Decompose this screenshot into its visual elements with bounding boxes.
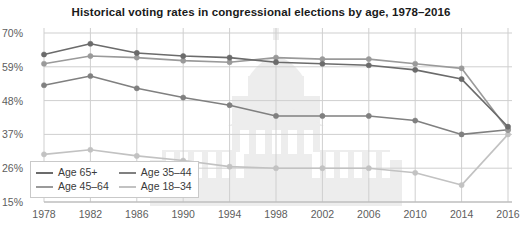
x-axis-tick-label: 1990: [172, 208, 196, 220]
legend-item[interactable]: Age 45–64: [36, 180, 109, 193]
y-axis-tick-label: 15%: [2, 196, 23, 208]
legend-label: Age 65+: [58, 166, 97, 179]
data-point: [227, 55, 232, 60]
data-point: [41, 152, 46, 157]
legend-label: Age 35–44: [141, 166, 192, 179]
data-point: [273, 60, 278, 65]
x-axis-tick-label: 2014: [450, 208, 474, 220]
legend-item[interactable]: Age 65+: [36, 166, 109, 179]
chart-container: Historical voting rates in congressional…: [0, 0, 522, 235]
y-axis-labels: 70%59%48%37%26%15%: [2, 27, 23, 208]
data-point: [41, 61, 46, 66]
x-axis-tick-label: 2006: [357, 208, 381, 220]
legend-label: Age 18–34: [141, 180, 192, 193]
data-point: [505, 124, 510, 129]
data-point: [366, 63, 371, 68]
legend-item[interactable]: Age 18–34: [119, 180, 192, 193]
chart-legend: Age 65+Age 35–44Age 45–64Age 18–34: [30, 161, 199, 198]
data-point: [88, 73, 93, 78]
data-point: [459, 66, 464, 71]
x-axis-tick-label: 2016: [496, 208, 520, 220]
x-axis-tick-label: 1994: [218, 208, 242, 220]
x-axis-tick-label: 2002: [311, 208, 335, 220]
data-point: [88, 53, 93, 58]
data-point: [366, 57, 371, 62]
data-point: [134, 153, 139, 158]
x-axis-tick-label: 2010: [404, 208, 428, 220]
y-axis-tick-label: 59%: [2, 61, 23, 73]
y-axis-tick-label: 37%: [2, 128, 23, 140]
legend-swatch: [119, 172, 136, 174]
data-point: [413, 170, 418, 175]
x-axis-labels: 1978198219861990199419982002200620102014…: [32, 208, 520, 220]
data-point: [366, 113, 371, 118]
data-point: [134, 86, 139, 91]
data-point: [41, 52, 46, 57]
data-point: [181, 53, 186, 58]
data-point: [413, 61, 418, 66]
legend-label: Age 45–64: [58, 180, 109, 193]
y-axis-tick-label: 26%: [2, 162, 23, 174]
data-point: [459, 76, 464, 81]
x-axis-tick-label: 1986: [125, 208, 149, 220]
y-axis-tick-label: 48%: [2, 95, 23, 107]
x-axis-tick-label: 1998: [264, 208, 288, 220]
legend-item[interactable]: Age 35–44: [119, 166, 192, 179]
data-point: [41, 83, 46, 88]
data-point: [88, 147, 93, 152]
data-point: [181, 95, 186, 100]
data-point: [273, 113, 278, 118]
data-point: [459, 183, 464, 188]
data-point: [366, 166, 371, 171]
y-axis-tick-label: 70%: [2, 27, 23, 39]
data-point: [320, 166, 325, 171]
chart-plot: 70%59%48%37%26%15% 197819821986199019941…: [0, 0, 522, 235]
data-point: [459, 132, 464, 137]
data-point: [413, 67, 418, 72]
data-point: [273, 166, 278, 171]
data-point: [320, 113, 325, 118]
data-point: [134, 50, 139, 55]
x-axis-tick-label: 1982: [79, 208, 103, 220]
data-point: [413, 118, 418, 123]
legend-swatch: [119, 186, 136, 188]
legend-swatch: [36, 186, 53, 188]
data-point: [88, 41, 93, 46]
data-point: [227, 164, 232, 169]
data-point: [320, 61, 325, 66]
data-point: [227, 103, 232, 108]
legend-swatch: [36, 172, 53, 174]
x-axis-tick-label: 1978: [32, 208, 56, 220]
